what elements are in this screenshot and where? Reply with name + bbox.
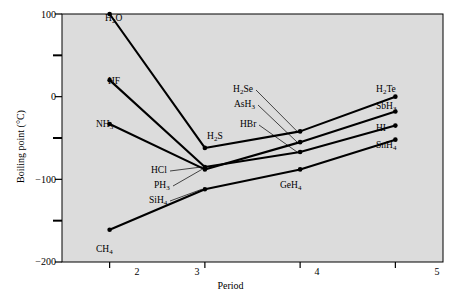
series-label-hf: HF	[108, 77, 120, 87]
y-axis-title: Boiling point (°C)	[16, 110, 26, 183]
x-axis-title: Period	[0, 281, 461, 291]
series-label-hbr: HBr	[240, 120, 256, 130]
series-label-hcl: HCl	[151, 166, 167, 176]
series-label-snh4: SnH4	[376, 141, 396, 151]
series-label-h2s: H2S	[207, 132, 223, 142]
series-label-ph3: PH3	[154, 181, 170, 191]
data-point-CH4	[107, 227, 112, 232]
data-point-PH3	[203, 167, 208, 172]
data-point-HBr	[298, 150, 303, 155]
y-axis-ticks	[53, 14, 62, 262]
data-point-GeH4	[298, 167, 303, 172]
chart-plot-area	[0, 0, 461, 303]
series-label-h2o: H2O	[105, 14, 122, 24]
series-label-ch4: CH4	[96, 245, 113, 255]
x-axis-ticks	[110, 262, 396, 268]
ytick-label-neg200: −200	[12, 257, 56, 267]
xtick-label-3: 3	[187, 267, 207, 277]
series-label-h2se: H2Se	[233, 85, 253, 95]
xtick-label-2: 2	[127, 267, 147, 277]
ytick-label-100: 100	[18, 10, 56, 20]
xtick-label-5: 5	[427, 267, 447, 277]
series-label-sih4: SiH4	[149, 196, 167, 206]
series-label-h2te: H2Te	[376, 85, 396, 95]
series-label-hi: HI	[376, 124, 386, 134]
data-point-AsH3	[298, 140, 303, 145]
series-label-sbh3: SbH3	[376, 102, 396, 112]
xtick-label-4: 4	[307, 267, 327, 277]
ytick-label-0: 0	[18, 92, 56, 102]
data-point-H2S	[203, 146, 208, 151]
series-label-ash3: AsH3	[234, 100, 255, 110]
data-point-H2Te	[393, 94, 398, 99]
series-label-nh3: NH3	[96, 120, 113, 130]
series-label-geh4: GeH4	[280, 181, 301, 191]
data-point-H2Se	[298, 129, 303, 134]
data-point-HI	[393, 123, 398, 128]
boiling-point-chart-figure: 100 0 −100 −200 2 3 4 5 Boiling point (°…	[0, 0, 461, 303]
data-point-SiH4	[203, 187, 208, 192]
